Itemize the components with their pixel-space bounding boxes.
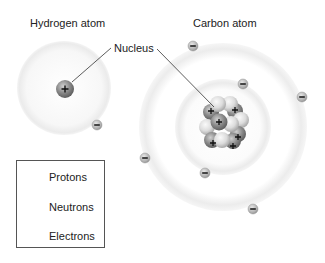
carbon-atom (139, 41, 307, 214)
legend-neutrons-label: Neutrons (49, 201, 94, 213)
legend-protons-label: Protons (49, 171, 87, 183)
carbon-electron-icon (238, 79, 248, 89)
carbon-electron-icon (248, 204, 258, 214)
carbon-electron-icon (140, 153, 150, 163)
hydrogen-atom (17, 41, 111, 135)
legend: Protons Neutrons Electrons (16, 160, 105, 248)
legend-electrons-label: Electrons (49, 230, 95, 242)
nucleus-label: Nucleus (114, 42, 154, 54)
hydrogen-proton-icon (56, 80, 74, 98)
carbon-atom-title: Carbon atom (193, 17, 257, 29)
hydrogen-electron-icon (92, 120, 102, 130)
carbon-electron-icon (188, 41, 198, 51)
hydrogen-atom-title: Hydrogen atom (30, 17, 105, 29)
carbon-electron-icon (297, 92, 307, 102)
carbon-electron-icon (200, 168, 210, 178)
